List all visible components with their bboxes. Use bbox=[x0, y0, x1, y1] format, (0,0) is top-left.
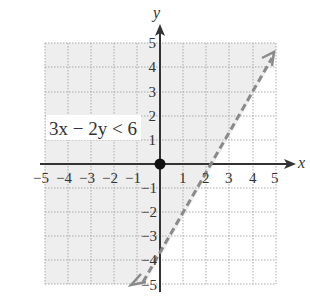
svg-text:−5: −5 bbox=[141, 277, 157, 293]
svg-text:4: 4 bbox=[149, 59, 157, 75]
svg-text:2: 2 bbox=[202, 170, 210, 186]
svg-text:3: 3 bbox=[225, 170, 233, 186]
svg-text:2: 2 bbox=[149, 108, 157, 124]
svg-text:−2: −2 bbox=[141, 204, 157, 220]
svg-text:−4: −4 bbox=[141, 252, 157, 268]
svg-text:1: 1 bbox=[179, 170, 187, 186]
svg-text:−2: −2 bbox=[102, 170, 118, 186]
svg-text:4: 4 bbox=[249, 170, 257, 186]
svg-text:−5: −5 bbox=[33, 170, 49, 186]
svg-text:5: 5 bbox=[149, 35, 157, 51]
svg-text:3: 3 bbox=[149, 84, 157, 100]
svg-text:−1: −1 bbox=[141, 180, 157, 196]
svg-text:5: 5 bbox=[271, 170, 279, 186]
svg-text:1: 1 bbox=[149, 132, 157, 148]
x-axis-label: x bbox=[297, 154, 305, 171]
test-point-origin bbox=[155, 159, 166, 170]
svg-text:−4: −4 bbox=[56, 170, 72, 186]
inequality-graph: 3x − 2y < 6 x y −5 −4 −3 −2 −1 1 2 3 4 5… bbox=[0, 0, 310, 303]
inequality-label: 3x − 2y < 6 bbox=[49, 118, 137, 139]
svg-text:−3: −3 bbox=[79, 170, 95, 186]
svg-text:−1: −1 bbox=[125, 170, 141, 186]
svg-text:−3: −3 bbox=[141, 228, 157, 244]
y-axis-label: y bbox=[151, 4, 161, 22]
